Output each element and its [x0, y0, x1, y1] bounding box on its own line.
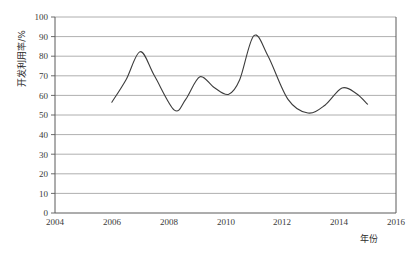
gridlines [55, 17, 396, 193]
data-series-line [112, 35, 368, 113]
chart-plot-svg [0, 0, 417, 254]
chart-container: 开发利用率/% 年份 100 90 80 70 60 50 40 30 20 1… [0, 0, 417, 254]
axis-ticks [51, 17, 55, 213]
